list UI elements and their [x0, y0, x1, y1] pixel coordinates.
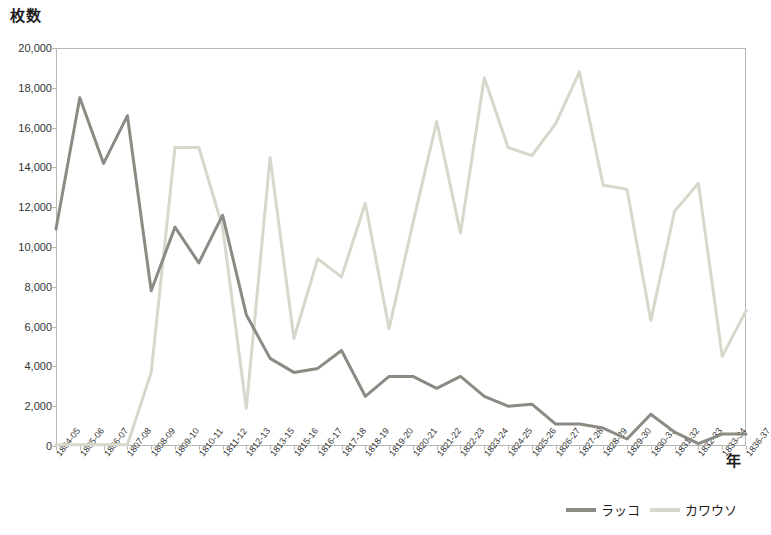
legend-item-rakko: ラッコ	[566, 500, 640, 519]
y-tick-label: 8,000	[24, 281, 52, 293]
y-tick-label: 4,000	[24, 360, 52, 372]
y-tick-label: 12,000	[18, 201, 52, 213]
y-tick-label: 2,000	[24, 400, 52, 412]
y-tick-mark	[51, 167, 56, 168]
y-tick-mark	[51, 327, 56, 328]
y-tick-mark	[51, 207, 56, 208]
x-tick-label: 1836-37	[744, 426, 771, 458]
y-tick-label: 16,000	[18, 122, 52, 134]
legend-label-kawauso: カワウソ	[685, 500, 737, 519]
y-tick-label: 20,000	[18, 42, 52, 54]
y-tick-mark	[51, 406, 56, 407]
legend-label-rakko: ラッコ	[601, 500, 640, 519]
y-tick-mark	[51, 48, 56, 49]
y-tick-mark	[51, 88, 56, 89]
line-chart: 枚数 年 02,0004,0006,0008,00010,00012,00014…	[0, 0, 771, 535]
legend-swatch-kawauso	[650, 508, 680, 512]
y-tick-mark	[51, 247, 56, 248]
legend-swatch-rakko	[566, 508, 596, 512]
chart-legend: ラッコ カワウソ	[566, 500, 737, 519]
y-tick-label: 6,000	[24, 321, 52, 333]
legend-item-kawauso: カワウソ	[650, 500, 737, 519]
y-tick-label: 10,000	[18, 241, 52, 253]
y-tick-label: 18,000	[18, 82, 52, 94]
plot-area	[56, 48, 746, 446]
y-tick-mark	[51, 366, 56, 367]
y-tick-mark	[51, 128, 56, 129]
y-tick-label: 14,000	[18, 161, 52, 173]
y-axis-title: 枚数	[10, 4, 42, 25]
y-tick-mark	[51, 287, 56, 288]
